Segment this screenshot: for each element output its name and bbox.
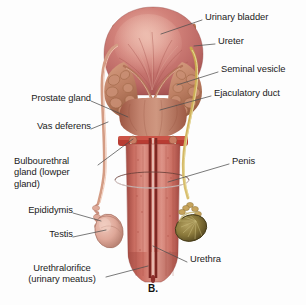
label-ureter: Ureter (218, 35, 244, 46)
figure-caption: B. (0, 283, 306, 294)
label-ejaculatory-duct: Ejaculatory duct (214, 87, 280, 98)
label-vas-deferens: Vas deferens (0, 120, 95, 131)
penis-shaft (126, 138, 180, 283)
prostate-gland (119, 98, 186, 138)
label-bulbourethral-gland: Bulbourethral gland (lowper gland) (0, 155, 114, 189)
label-urethra: Urethra (190, 253, 221, 264)
anatomy-figure: Prostate gland Vas deferens Bulbourethra… (0, 0, 306, 305)
label-epididymis: Epididymis (0, 204, 77, 215)
label-prostate-gland: Prostate gland (0, 92, 95, 103)
label-seminal-vesicle: Seminal vesicle (221, 63, 285, 74)
label-urinary-bladder: Urinary bladder (205, 11, 268, 22)
label-penis: Penis (232, 155, 255, 166)
label-testis: Testis (0, 228, 77, 239)
anatomy-illustration (0, 0, 306, 305)
label-urethral-orifice: Urethralorifice (urinary meatus) (16, 262, 108, 285)
